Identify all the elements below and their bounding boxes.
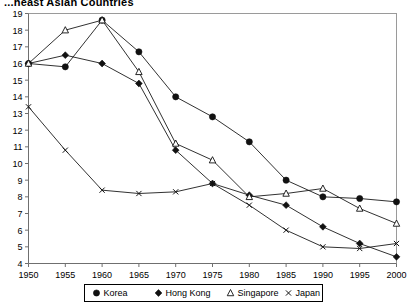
data-point-marker <box>283 202 290 209</box>
y-axis-tick-group: 19181716151413121110987654 <box>12 9 28 269</box>
series-line <box>29 20 397 202</box>
y-axis-tick-label: 17 <box>12 42 22 52</box>
data-point-marker <box>209 114 215 120</box>
y-axis-tick-label: 14 <box>12 92 22 102</box>
legend-marker-icon <box>93 290 99 296</box>
chart-legend: KoreaHong KongSingaporeJapan <box>85 285 323 302</box>
data-point-marker <box>320 194 326 200</box>
data-point-marker <box>393 253 400 260</box>
data-point-marker <box>320 223 327 230</box>
data-point-marker <box>62 64 68 70</box>
data-point-marker <box>393 199 399 205</box>
x-axis-tick-label: 2000 <box>386 270 406 280</box>
y-axis-tick-label: 10 <box>12 159 22 169</box>
x-axis-tick-label: 1975 <box>202 270 222 280</box>
data-point-marker <box>357 195 363 201</box>
data-point-marker <box>136 49 142 55</box>
y-axis-tick-label: 7 <box>17 209 22 219</box>
series-singapore <box>25 17 399 227</box>
data-point-marker <box>62 52 69 59</box>
y-axis-tick-label: 8 <box>17 192 22 202</box>
data-point-marker <box>172 140 178 146</box>
data-point-marker <box>356 205 362 211</box>
legend-item-label: Korea <box>104 288 128 298</box>
data-point-marker <box>284 228 289 233</box>
x-axis-tick-label: 1955 <box>55 270 75 280</box>
x-axis-tick-label: 1950 <box>18 270 38 280</box>
plot-frame <box>29 14 397 264</box>
data-point-marker <box>173 94 179 100</box>
series-line <box>29 107 397 249</box>
data-point-marker <box>136 80 143 87</box>
y-axis-tick-label: 18 <box>12 26 22 36</box>
x-axis-tick-group: 1950195519601965197019751980198519901995… <box>18 264 406 280</box>
data-point-marker <box>63 148 68 153</box>
data-point-marker <box>209 157 215 163</box>
data-point-marker <box>320 185 326 191</box>
chart-container: ...heast Asian Countries 191817161514131… <box>0 0 407 307</box>
data-point-marker <box>393 220 399 226</box>
y-axis-tick-label: 12 <box>12 126 22 136</box>
y-axis-tick-label: 6 <box>17 226 22 236</box>
data-point-marker <box>246 139 252 145</box>
series-japan <box>26 104 399 251</box>
x-axis-tick-label: 1985 <box>276 270 296 280</box>
x-axis-tick-label: 1960 <box>92 270 112 280</box>
data-point-marker <box>99 60 106 67</box>
y-axis-tick-label: 4 <box>17 259 22 269</box>
y-axis-tick-label: 9 <box>17 176 22 186</box>
x-axis-tick-label: 1965 <box>129 270 149 280</box>
data-point-marker <box>283 177 289 183</box>
legend-item-label: Hong Kong <box>166 288 211 298</box>
x-axis-tick-label: 1995 <box>350 270 370 280</box>
x-axis-tick-label: 1980 <box>239 270 259 280</box>
y-axis-tick-label: 15 <box>12 76 22 86</box>
y-axis-tick-label: 16 <box>12 59 22 69</box>
legend-item-label: Japan <box>296 288 321 298</box>
y-axis-tick-label: 13 <box>12 109 22 119</box>
series-korea <box>25 17 399 205</box>
y-axis-tick-label: 19 <box>12 9 22 19</box>
y-axis-tick-label: 11 <box>13 142 22 152</box>
legend-item-label: Singapore <box>238 288 279 298</box>
data-point-marker <box>247 203 252 208</box>
chart-svg: 19181716151413121110987654 1950195519601… <box>0 0 407 307</box>
x-axis-tick-label: 1970 <box>166 270 186 280</box>
series-line <box>29 20 397 223</box>
series-layer <box>25 17 400 261</box>
x-axis-tick-label: 1990 <box>313 270 333 280</box>
y-axis-tick-label: 5 <box>17 242 22 252</box>
